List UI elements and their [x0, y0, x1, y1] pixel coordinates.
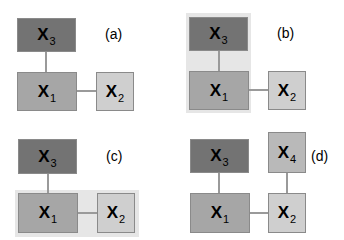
node-x3: X3	[189, 17, 248, 51]
node-x2: X2	[97, 193, 135, 233]
node-x4: X4	[268, 132, 306, 173]
node-x2: X2	[268, 71, 306, 110]
panel-label-c: (c)	[106, 148, 122, 164]
edge-x1-x2	[77, 212, 97, 214]
node-x3: X3	[17, 18, 76, 52]
edge-x1-x2	[76, 90, 96, 92]
edge-x3-x1	[45, 51, 47, 72]
node-x2: X2	[96, 72, 134, 111]
edge-x4-x2	[286, 172, 288, 193]
edge-x1-x2	[249, 212, 268, 214]
edge-x3-x1	[218, 172, 220, 193]
node-x3: X3	[190, 139, 249, 173]
node-x1: X1	[190, 193, 250, 233]
panel-label-d: (d)	[311, 148, 328, 164]
edge-x3-x1	[47, 173, 49, 193]
edge-x3-x1	[218, 50, 220, 71]
node-x2: X2	[268, 193, 306, 233]
node-x1: X1	[17, 72, 77, 111]
node-x3: X3	[18, 139, 77, 174]
panel-label-b: (b)	[277, 25, 294, 41]
panel-label-a: (a)	[105, 26, 122, 42]
node-x1: X1	[189, 71, 249, 110]
node-x1: X1	[18, 193, 78, 233]
edge-x1-x2	[249, 89, 268, 91]
